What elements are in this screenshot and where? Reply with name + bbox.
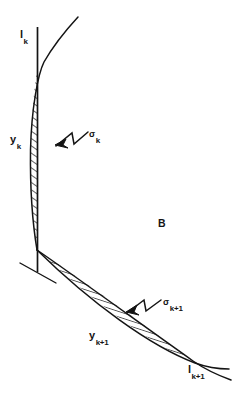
- label-line-k-base: l: [20, 28, 23, 40]
- label-curve-k-plus-1-base: y: [89, 329, 95, 341]
- label-region-k-sub: k: [96, 136, 100, 145]
- label-line-k-plus-1-base: l: [188, 363, 191, 375]
- label-curve-k-sub: k: [17, 142, 21, 151]
- label-curve-k-base: y: [10, 133, 16, 145]
- label-line-k: lk: [20, 29, 27, 43]
- label-line-k-plus-1-sub: k+1: [192, 372, 205, 381]
- label-curve-k-plus-1: yk+1: [89, 330, 108, 344]
- sigma-k-plus-1-pointer: [126, 300, 161, 315]
- label-line-k-plus-1: lk+1: [188, 364, 204, 378]
- label-line-k-sub: k: [24, 37, 28, 46]
- sigma-k-pointer: [55, 132, 88, 148]
- figure-container: lk yk σk B σk+1 yk+1 lk+1: [0, 0, 241, 399]
- label-region-k-plus-1-base: σ: [163, 297, 169, 307]
- label-region-k: σk: [89, 130, 99, 143]
- diagram-canvas: [0, 0, 241, 399]
- label-domain-b: B: [158, 218, 166, 229]
- lower-outer-curve: [37, 250, 231, 380]
- label-domain-b-base: B: [158, 217, 166, 229]
- label-region-k-base: σ: [89, 129, 95, 139]
- label-region-k-plus-1: σk+1: [163, 298, 182, 311]
- label-curve-k-plus-1-sub: k+1: [96, 338, 109, 347]
- label-region-k-plus-1-sub: k+1: [170, 304, 183, 313]
- sigma-k-arrowhead: [55, 139, 68, 148]
- label-curve-k: yk: [10, 134, 20, 148]
